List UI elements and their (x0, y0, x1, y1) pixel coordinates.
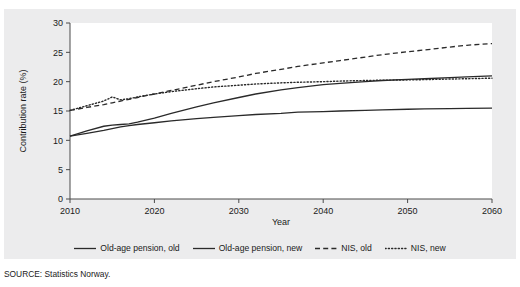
legend-entry[interactable]: NIS, new (385, 243, 446, 253)
series-line (70, 76, 492, 136)
y-tick-label: 0 (58, 194, 63, 204)
y-tick-label: 25 (53, 48, 63, 58)
legend-entry[interactable]: Old-age pension, new (193, 243, 303, 253)
legend-swatch-oldage_new (193, 245, 215, 252)
chart-legend: Old-age pension, oldOld-age pension, new… (4, 239, 516, 257)
x-tick-label: 2060 (482, 206, 502, 216)
y-tick-label: 15 (53, 106, 63, 116)
legend-swatch-nis_old (315, 245, 337, 252)
y-tick-label: 10 (53, 136, 63, 146)
y-tick-label: 5 (58, 165, 63, 175)
x-tick-label: 2030 (229, 206, 249, 216)
y-axis-title: Contribution rate (%) (18, 69, 28, 152)
series-group (70, 44, 492, 137)
x-tick-label: 2020 (144, 206, 164, 216)
x-tick-label: 2050 (398, 206, 418, 216)
y-tick-label: 30 (53, 18, 63, 28)
x-tick-label: 2040 (313, 206, 333, 216)
series-line (70, 108, 492, 136)
series-line (70, 44, 492, 111)
legend-entry[interactable]: Old-age pension, old (74, 243, 179, 253)
legend-label: Old-age pension, new (219, 243, 303, 253)
legend-label: NIS, new (411, 243, 446, 253)
legend-label: Old-age pension, old (100, 243, 179, 253)
legend-entry[interactable]: NIS, old (315, 243, 372, 253)
series-line (70, 78, 492, 110)
y-axis-ticks: 051015202530 (53, 18, 70, 204)
x-tick-label: 2010 (60, 206, 80, 216)
figure-panel: 051015202530 201020202030204020502060 Co… (4, 9, 516, 259)
line-chart: 051015202530 201020202030204020502060 Co… (4, 9, 516, 259)
legend-swatch-oldage_old (74, 245, 96, 252)
x-axis-ticks: 201020202030204020502060 (60, 199, 502, 216)
legend-label: NIS, old (341, 243, 372, 253)
y-tick-label: 20 (53, 77, 63, 87)
legend-swatch-nis_new (385, 245, 407, 252)
source-note: SOURCE: Statistics Norway. (4, 269, 110, 279)
x-axis-title: Year (272, 217, 290, 227)
